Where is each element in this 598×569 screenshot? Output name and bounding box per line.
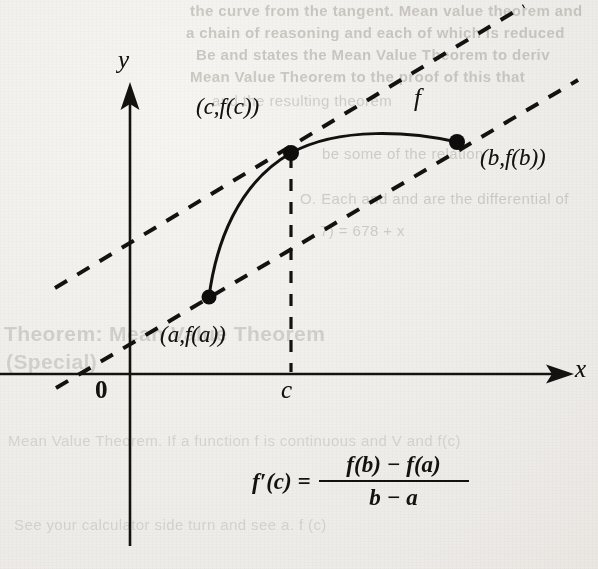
formula-fraction: f(b) − f(a) b − a [319,452,469,511]
figure-canvas: the curve from the tangent. Mean value t… [0,0,598,569]
x-tick-label-c: c [281,376,292,404]
y-axis-label: y [118,46,129,74]
point-a [202,290,217,305]
formula-left-side: f′(c) = [252,469,311,495]
origin-label: 0 [95,376,108,404]
secant-line [56,80,578,388]
y-axis [121,82,140,546]
formula-denominator: b − a [363,482,423,511]
mvt-formula: f′(c) = f(b) − f(a) b − a [252,452,469,511]
point-label-b: (b,f(b)) [480,145,546,171]
x-axis-label: x [575,355,586,383]
formula-numerator: f(b) − f(a) [340,452,446,480]
point-b [449,134,465,150]
point-label-c: (c,f(c)) [196,94,259,120]
point-c [283,145,299,161]
point-label-a: (a,f(a)) [160,322,226,348]
function-curve [209,134,457,297]
function-label: f [414,84,421,112]
